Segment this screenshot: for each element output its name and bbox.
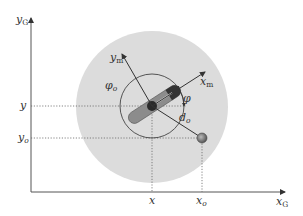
- phi-o-label: φo: [105, 80, 117, 93]
- diagram-svg: [0, 0, 303, 216]
- x-tick-label: x: [149, 195, 155, 206]
- x-robot-label: xm: [200, 76, 213, 89]
- yo-tick-label: yo: [18, 132, 29, 145]
- y-robot-label: ym: [110, 52, 123, 65]
- x-global-label: xG: [276, 196, 288, 209]
- xo-tick-label: xo: [196, 195, 207, 208]
- y-global-label: yG: [16, 14, 28, 27]
- phi-label: φ: [183, 93, 191, 104]
- do-label: do: [179, 112, 191, 125]
- diagram-canvas: yG xG ym xm y yo x xo φ φo do: [0, 0, 303, 216]
- y-tick-label: y: [20, 100, 26, 111]
- object-marker: [197, 133, 207, 143]
